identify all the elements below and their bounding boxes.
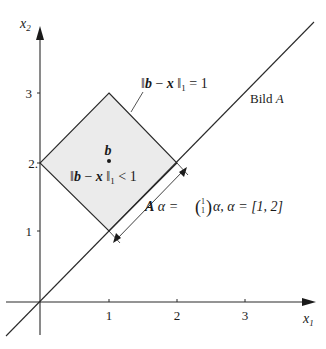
x-tick-label-1: 1 [106, 308, 113, 323]
bild-a-label: Bild A [250, 91, 284, 106]
segment-arrow-upper-icon [179, 167, 187, 177]
diagram-canvas: 1 2 3 1 2. 3 x1 x2 ‖b − x ‖1 = 1 b ‖b − … [0, 0, 326, 349]
x2-axis-arrow-icon [36, 26, 44, 40]
interior-label: ‖b − x ‖1 < 1 [70, 169, 137, 186]
y-tick-label-3: 3 [26, 86, 33, 101]
x1-axis-label: x1 [302, 311, 314, 328]
x2-axis-label: x2 [19, 16, 31, 33]
y-tick-label-2: 2. [28, 156, 38, 171]
boundary-label: ‖b − x ‖1 = 1 [141, 76, 208, 93]
x-tick-label-2: 2 [174, 308, 181, 323]
x1-axis-arrow-icon [302, 298, 316, 306]
vector-top: 1 [201, 197, 205, 206]
image-line-bild-a [6, 22, 314, 336]
segment-label-rest: α, α = [1, 2] [213, 199, 283, 214]
segment-label: A α = [144, 199, 178, 214]
y-tick-label-1: 1 [26, 224, 33, 239]
segment-arrow-lower-icon [113, 233, 121, 243]
boundary-label-leader [131, 92, 143, 112]
center-point-label: b [105, 143, 112, 158]
x-tick-label-3: 3 [242, 308, 249, 323]
center-point-b [107, 159, 111, 163]
vector-paren-close: ) [206, 197, 212, 218]
vector-bottom: 1 [201, 206, 205, 215]
